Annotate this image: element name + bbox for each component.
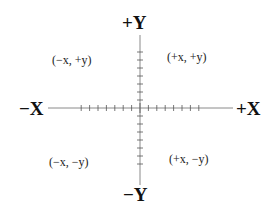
y-negative-label: −Y: [123, 185, 148, 204]
quadrant-2-label: (−x, +y): [52, 54, 92, 66]
quadrant-1-label: (+x, +y): [167, 51, 207, 63]
x-positive-label: +X: [236, 99, 261, 118]
y-positive-label: +Y: [122, 13, 147, 32]
x-negative-label: −X: [19, 99, 44, 118]
quadrant-4-label: (+x, −y): [169, 153, 209, 165]
coordinate-plane-diagram: +Y −Y −X +X (+x, +y) (−x, +y) (−x, −y) (…: [0, 0, 277, 213]
quadrant-3-label: (−x, −y): [49, 156, 89, 168]
